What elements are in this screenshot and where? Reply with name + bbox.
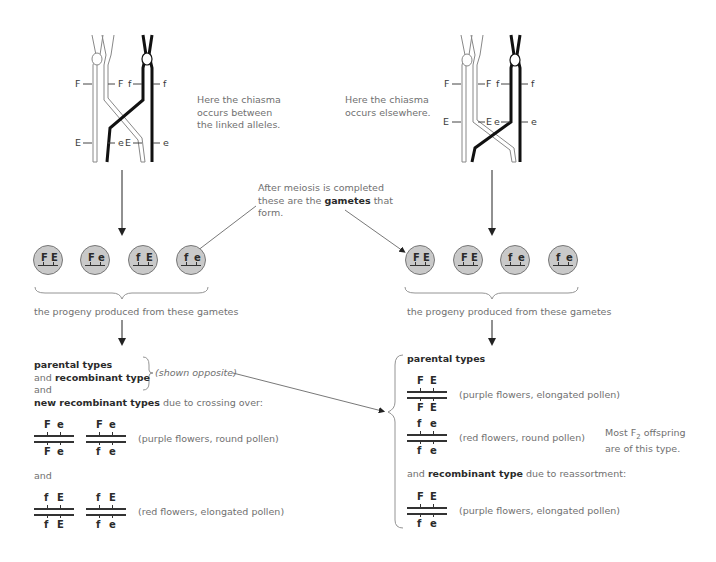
phenotype-label: (purple flowers, elongated pollen) <box>459 389 620 402</box>
allele-label: F <box>118 78 123 91</box>
gamete: fe <box>176 245 206 275</box>
allele-label: e <box>494 116 500 129</box>
genotype: fe fe <box>407 418 447 458</box>
right-results-brace <box>388 355 403 528</box>
gametes-note: After meiosis is completed these are the… <box>258 182 393 220</box>
allele-label: F <box>75 78 80 91</box>
genotype: fE fE <box>34 492 74 532</box>
allele-label: e <box>118 137 124 150</box>
allele-label: E <box>443 116 449 129</box>
gamete: fE <box>128 245 158 275</box>
gamete: Fe <box>80 245 110 275</box>
phenotype-label: (purple flowers, elongated pollen) <box>459 505 620 518</box>
gamete: fe <box>548 245 578 275</box>
genotype: FE FE <box>407 375 447 415</box>
allele-label: f <box>163 78 166 91</box>
allele-label: F <box>486 78 491 91</box>
right-progeny-caption: the progeny produced from these gametes <box>407 306 611 319</box>
gamete: FE <box>33 245 63 275</box>
gamete: fe <box>500 245 530 275</box>
allele-label: F <box>444 78 449 91</box>
allele-label: E <box>125 137 131 150</box>
allele-label: e <box>163 137 169 150</box>
allele-label: f <box>496 78 499 91</box>
right-light-chromosome <box>461 35 516 162</box>
phenotype-label: (red flowers, round pollen) <box>459 432 585 445</box>
left-progeny-caption: the progeny produced from these gametes <box>34 306 238 319</box>
recombinant-heading: and recombinant type due to reassortment… <box>407 468 626 481</box>
left-gamete-brace <box>35 287 208 299</box>
genotype: fE fe <box>86 492 126 532</box>
phenotype-label: (red flowers, elongated pollen) <box>138 506 284 519</box>
gamete: FE <box>453 245 483 275</box>
genotype: Fe Fe <box>34 419 74 459</box>
allele-label: E <box>75 137 81 150</box>
allele-label: f <box>128 78 131 91</box>
most-offspring-note: Most F2 offspring are of this type. <box>605 427 686 456</box>
parental-types-heading: parental types <box>407 353 485 366</box>
right-gamete-brace <box>405 287 578 299</box>
right-chiasma-caption: Here the chiasma occurs elsewhere. <box>345 94 431 119</box>
left-chiasma-caption: Here the chiasma occurs between the link… <box>197 94 281 132</box>
allele-label: f <box>531 78 534 91</box>
and-label: and <box>34 470 52 483</box>
genotype: Fe fe <box>86 419 126 459</box>
genotype: FE fe <box>407 491 447 531</box>
allele-label: e <box>531 116 537 129</box>
shown-opposite-note: (shown opposite) <box>155 367 237 380</box>
allele-label: E <box>486 116 492 129</box>
gamete: FE <box>405 245 435 275</box>
phenotype-label: (purple flowers, round pollen) <box>138 433 279 446</box>
